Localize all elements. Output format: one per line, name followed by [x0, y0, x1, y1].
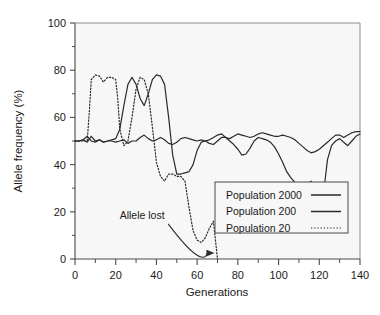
chart-canvas: 020406080100 020406080100120140 Allele l… [0, 0, 380, 315]
annotation-label: Allele lost [120, 209, 165, 221]
x-tick-label: 60 [191, 269, 203, 281]
y-tick-label: 0 [60, 253, 66, 265]
x-tick-label: 80 [232, 269, 244, 281]
x-tick-label: 40 [150, 269, 162, 281]
y-tick-label: 80 [54, 64, 66, 76]
x-tick-label: 0 [72, 269, 78, 281]
chart-legend: Population 2000Population 200Population … [215, 182, 348, 234]
legend-label-0: Population 2000 [226, 189, 302, 201]
x-tick-label: 120 [310, 269, 328, 281]
legend-label-1: Population 200 [226, 205, 296, 217]
legend-label-2: Population 20 [226, 222, 290, 234]
allele-frequency-chart: 020406080100 020406080100120140 Allele l… [0, 0, 380, 315]
y-tick-label: 40 [54, 159, 66, 171]
x-tick-label: 100 [269, 269, 287, 281]
x-tick-label: 140 [351, 269, 369, 281]
x-tick-label: 20 [110, 269, 122, 281]
y-axis-title: Allele frequency (%) [12, 89, 24, 192]
y-tick-label: 60 [54, 111, 66, 123]
y-tick-label: 20 [54, 206, 66, 218]
y-tick-label: 100 [48, 17, 66, 29]
x-axis-title: Generations [186, 286, 249, 298]
